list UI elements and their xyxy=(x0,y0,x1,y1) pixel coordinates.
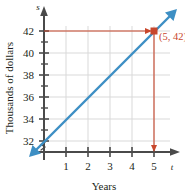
y-tick-label-34: 34 xyxy=(23,113,35,125)
y-tick-label-36: 36 xyxy=(23,91,35,103)
grid-lines xyxy=(44,26,170,152)
x-tick-label-1: 1 xyxy=(63,160,69,172)
x-axis-title: Years xyxy=(92,180,117,192)
x-axis-arrowhead-icon xyxy=(170,148,180,156)
trend-line xyxy=(34,14,172,152)
y-tick-labels: 42 40 38 36 34 32 xyxy=(23,25,35,147)
x-tick-label-3: 3 xyxy=(107,160,113,172)
y-tick-label-40: 40 xyxy=(23,47,35,59)
chart-figure: 42 40 38 36 34 32 1 2 3 4 5 s t (5, 42) … xyxy=(0,0,185,196)
x-tick-label-4: 4 xyxy=(129,160,135,172)
x-tick-labels: 1 2 3 4 5 xyxy=(63,160,157,172)
x-tick-label-5: 5 xyxy=(151,160,157,172)
y-axis-title: Thousands of dollars xyxy=(3,42,15,134)
y-axis-arrowhead-icon xyxy=(40,6,48,16)
y-tick-label-38: 38 xyxy=(23,69,35,81)
guide-arrowhead-down-icon xyxy=(151,145,157,152)
y-tick-label-32: 32 xyxy=(23,135,34,147)
highlighted-point-marker xyxy=(151,28,158,35)
x-axis-symbol: t xyxy=(171,162,174,172)
x-tick-label-2: 2 xyxy=(85,160,91,172)
y-axis-symbol: s xyxy=(36,2,40,12)
coordinate-plane: 42 40 38 36 34 32 1 2 3 4 5 s t (5, 42) … xyxy=(0,0,185,196)
y-tick-label-42: 42 xyxy=(23,25,34,37)
point-annotation-label: (5, 42) xyxy=(159,31,185,43)
